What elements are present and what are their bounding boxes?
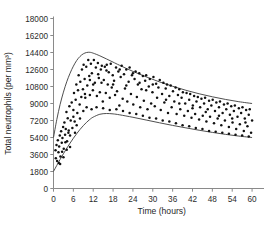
scatter-point: [137, 83, 140, 86]
scatter-point: [149, 78, 152, 81]
scatter-point: [77, 89, 80, 92]
y-tick-label: 0: [43, 185, 48, 194]
scatter-point: [115, 66, 118, 69]
y-tick-label: 9000: [30, 100, 49, 109]
scatter-point: [93, 59, 96, 62]
scatter-point: [221, 132, 224, 135]
scatter-point: [214, 131, 217, 134]
scatter-point: [78, 103, 81, 106]
scatter-point: [178, 88, 181, 91]
scatter-point: [219, 100, 222, 103]
scatter-point: [58, 162, 61, 165]
scatter-point: [244, 121, 247, 124]
y-tick-label: 16200: [25, 32, 48, 41]
scatter-point: [106, 64, 109, 67]
x-tick-label: 42: [188, 195, 198, 204]
scatter-point: [140, 88, 143, 91]
scatter-point: [57, 139, 60, 142]
scatter-point: [65, 111, 68, 114]
scatter-point: [77, 74, 80, 77]
scatter-point: [118, 104, 121, 107]
scatter-point: [234, 133, 237, 136]
scatter-point: [175, 113, 178, 116]
scatter-point: [146, 108, 149, 111]
scatter-point: [225, 108, 228, 111]
scatter-point: [164, 87, 167, 90]
scatter-point: [145, 74, 148, 77]
x-axis-title: Time (hours): [138, 206, 187, 216]
scatter-point: [65, 149, 68, 152]
scatter-point: [98, 77, 101, 80]
scatter-point: [163, 101, 166, 104]
scatter-point: [74, 98, 77, 101]
x-tick-label: 54: [228, 195, 238, 204]
x-tick-label: 0: [51, 195, 56, 204]
scatter-point: [99, 91, 102, 94]
scatter-point: [81, 68, 84, 71]
scatter-point: [119, 76, 122, 79]
y-tick-label: 12600: [25, 66, 48, 75]
scatter-point: [133, 78, 136, 81]
scatter-point: [221, 112, 224, 115]
scatter-point: [200, 98, 203, 101]
scatter-point: [170, 106, 173, 109]
lower-envelope-curve: [54, 113, 253, 171]
scatter-point: [64, 133, 67, 136]
scatter-point: [218, 106, 221, 109]
scatter-point: [250, 132, 253, 135]
scatter-point: [244, 117, 247, 120]
scatter-point: [210, 104, 213, 107]
scatter-point: [91, 72, 94, 75]
scatter-point: [204, 97, 207, 100]
scatter-point: [156, 97, 159, 100]
scatter-point: [208, 130, 211, 133]
scatter-point: [88, 75, 91, 78]
scatter-point: [59, 134, 62, 137]
y-tick-label: 1800: [30, 168, 49, 177]
scatter-point: [89, 79, 92, 82]
scatter-point: [159, 109, 162, 112]
scatter-point: [65, 128, 68, 131]
scatter-point: [241, 134, 244, 137]
scatter-point: [64, 141, 67, 144]
scatter-point: [87, 59, 90, 62]
scatter-point: [61, 137, 64, 140]
scatter-point: [54, 149, 57, 152]
x-tick-label: 24: [128, 195, 138, 204]
scatter-point: [214, 110, 217, 113]
scatter-point: [138, 81, 141, 84]
scatter-point: [79, 81, 82, 84]
scatter-point: [121, 98, 124, 101]
scatter-point: [132, 72, 135, 75]
scatter-point: [155, 117, 158, 120]
y-tick-label: 3600: [30, 151, 49, 160]
scatter-point: [240, 112, 243, 115]
scatter-point: [100, 81, 103, 84]
scatter-point: [230, 105, 233, 108]
scatter-point: [80, 96, 83, 99]
scatter-point: [139, 106, 142, 109]
scatter-point: [66, 117, 69, 120]
scatter-point: [152, 83, 155, 86]
scatter-point: [55, 157, 58, 160]
x-tick-label: 36: [168, 195, 178, 204]
scatter-point: [134, 70, 137, 73]
scatter-point: [182, 91, 185, 94]
scatter-point: [195, 127, 198, 130]
scatter-point: [95, 106, 98, 109]
scatter-point: [180, 97, 183, 100]
scatter-point: [168, 120, 171, 123]
scatter-point: [249, 108, 252, 111]
scatter-point: [198, 118, 201, 121]
scatter-point: [114, 94, 117, 97]
scatter-point: [143, 99, 146, 102]
scatter-point: [151, 91, 154, 94]
scatter-point: [187, 110, 190, 113]
scatter-point: [92, 89, 95, 92]
scatter-point: [60, 130, 63, 133]
scatter-point: [84, 97, 87, 100]
scatter-point: [228, 132, 231, 135]
scatter-point: [55, 144, 58, 147]
scatter-points-group: [54, 59, 253, 165]
scatter-point: [148, 116, 151, 119]
